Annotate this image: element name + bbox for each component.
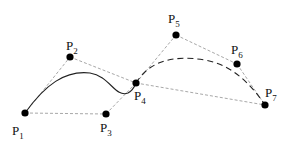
- label-p7: P7: [265, 86, 277, 99]
- label-p5: P5: [168, 12, 180, 25]
- label-p4: P4: [134, 89, 146, 102]
- control-line-p4-p5: [136, 35, 176, 83]
- label-subscript: 5: [175, 19, 180, 29]
- label-subscript: 7: [272, 93, 277, 103]
- control-point-p3: [102, 110, 109, 117]
- control-line-p6-p7: [237, 64, 265, 105]
- control-point-p4: [132, 79, 139, 86]
- label-subscript: 3: [107, 128, 112, 138]
- label-subscript: 4: [141, 96, 146, 106]
- control-point-p1: [21, 109, 28, 116]
- label-p3: P3: [100, 121, 112, 134]
- control-line-p2-p4: [70, 57, 136, 83]
- label-subscript: 1: [19, 131, 24, 141]
- control-line-p1-p3: [25, 113, 106, 114]
- control-point-p5: [172, 31, 179, 38]
- curve-segment-1: [25, 73, 136, 113]
- label-p6: P6: [231, 43, 243, 56]
- label-p1: P1: [12, 124, 24, 137]
- label-subscript: 6: [238, 50, 243, 60]
- bezier-diagram: [0, 0, 288, 148]
- curve-segment-2: [136, 58, 265, 105]
- control-point-p7: [261, 101, 268, 108]
- label-p2: P2: [66, 39, 78, 52]
- control-line-p5-p6: [176, 35, 237, 64]
- control-line-p3-p4: [106, 83, 136, 114]
- control-line-p4-p7: [136, 83, 265, 105]
- label-subscript: 2: [73, 46, 78, 56]
- control-point-p6: [233, 60, 240, 67]
